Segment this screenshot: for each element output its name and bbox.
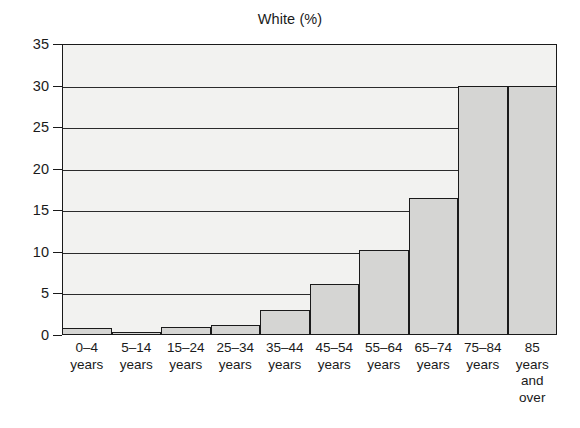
chart-figure: White (%) 05101520253035 0–4years5–14yea… xyxy=(0,0,580,428)
x-tick-label-line: and xyxy=(501,373,565,390)
bar xyxy=(161,327,211,335)
y-tick-label: 35 xyxy=(5,36,49,52)
y-tick-label: 0 xyxy=(5,327,49,343)
bar xyxy=(409,198,459,335)
y-tick-mark xyxy=(53,169,62,170)
y-tick-label: 20 xyxy=(5,161,49,177)
bar xyxy=(458,86,508,335)
y-tick-label: 15 xyxy=(5,202,49,218)
y-tick-mark xyxy=(53,252,62,253)
bar-series xyxy=(62,44,557,335)
bar xyxy=(508,86,558,335)
y-tick-mark xyxy=(53,86,62,87)
y-tick-mark xyxy=(53,335,62,336)
y-tick-label: 10 xyxy=(5,244,49,260)
x-tick-label-line: over xyxy=(501,390,565,407)
bar xyxy=(310,284,360,335)
y-tick-label: 30 xyxy=(5,78,49,94)
x-tick-label-line: 85 xyxy=(501,340,565,357)
x-tick-label-line: years xyxy=(501,357,565,374)
bar xyxy=(112,332,162,335)
bar xyxy=(211,325,261,335)
chart-title: White (%) xyxy=(0,11,580,27)
y-tick-label: 25 xyxy=(5,119,49,135)
x-axis: 0–4years5–14years15–24years25–34years35–… xyxy=(62,340,557,428)
bar xyxy=(359,250,409,335)
y-tick-mark xyxy=(53,127,62,128)
bar xyxy=(260,310,310,335)
y-tick-mark xyxy=(53,293,62,294)
x-tick-label: 85yearsandover xyxy=(501,340,565,406)
y-axis: 05101520253035 xyxy=(0,0,49,428)
y-tick-mark xyxy=(53,210,62,211)
bar xyxy=(62,328,112,335)
y-tick-mark xyxy=(53,44,62,45)
y-tick-label: 5 xyxy=(5,285,49,301)
